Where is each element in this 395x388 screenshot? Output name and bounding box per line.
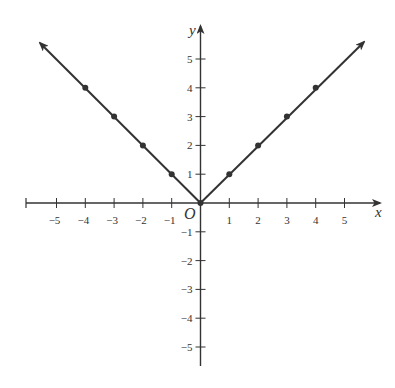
- y-tick-label: 4: [187, 82, 193, 94]
- x-tick-label: −4: [77, 214, 89, 226]
- y-tick-label: 1: [187, 168, 193, 180]
- x-tick-label: 5: [342, 214, 348, 226]
- x-tick-label: −2: [135, 214, 147, 226]
- right-branch: [201, 42, 365, 203]
- data-point: [140, 142, 146, 148]
- data-point: [198, 200, 204, 206]
- x-axis-label: x: [374, 204, 382, 220]
- y-tick-label: −3: [181, 283, 193, 295]
- axes: [26, 26, 380, 366]
- y-tick-label: 2: [187, 139, 193, 151]
- x-tick-label: 1: [227, 214, 233, 226]
- x-tick-label: −1: [164, 214, 176, 226]
- data-point: [169, 171, 175, 177]
- data-point: [82, 85, 88, 91]
- y-tick-label: 3: [187, 111, 193, 123]
- origin-label: O: [184, 205, 196, 222]
- data-point: [226, 171, 232, 177]
- x-tick-label: −5: [49, 214, 61, 226]
- x-tick-label: −3: [106, 214, 118, 226]
- series-abs-x: [40, 42, 364, 206]
- x-tick-label: 4: [313, 214, 319, 226]
- data-point: [284, 114, 290, 120]
- x-tick-label: 2: [255, 214, 261, 226]
- data-point: [255, 142, 261, 148]
- y-tick-label: −2: [181, 255, 193, 267]
- y-tick-label: 5: [187, 53, 193, 65]
- y-tick-label: −5: [181, 341, 193, 353]
- graph-canvas: −5−4−3−2−11234554321−1−2−3−4−5xyO: [0, 0, 395, 388]
- y-tick-label: −4: [181, 312, 193, 324]
- x-tick-label: 3: [284, 214, 290, 226]
- left-branch: [40, 43, 201, 203]
- y-tick-label: −1: [181, 226, 193, 238]
- data-point: [313, 85, 319, 91]
- data-point: [111, 114, 117, 120]
- y-axis-label: y: [187, 22, 196, 38]
